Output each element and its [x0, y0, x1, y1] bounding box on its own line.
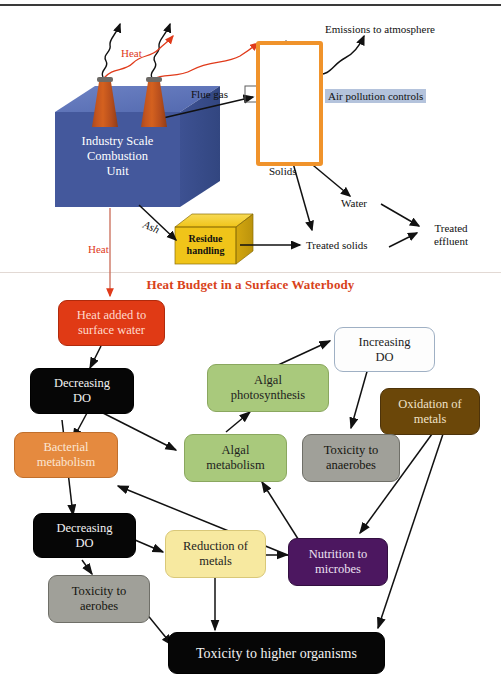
node-decreasing-do-lower[interactable]: Decreasing DO	[33, 513, 136, 558]
node-toxicity-to-higher-organisms-label: Toxicity to higher organisms	[196, 646, 357, 661]
figure-canvas: Industry Scale Combustion Unit Heat Flue…	[0, 0, 501, 690]
treated-effluent-line-1: Treated	[420, 222, 482, 235]
node-decreasing-do-lower-line-2: DO	[56, 536, 112, 551]
flue-gas-arrow	[163, 97, 253, 118]
heat-label-downward: Heat	[88, 243, 109, 255]
node-toxicity-to-aerobes[interactable]: Toxicity to aerobes	[48, 575, 150, 623]
node-bacterial-metabolism[interactable]: Bacterial metabolism	[14, 432, 118, 478]
edge-heat-to-dec-do1	[90, 346, 101, 368]
smokestack-right	[141, 80, 167, 127]
stack1-smoke-arrow	[102, 24, 120, 77]
node-bacterial-metabolism-line-2: metabolism	[37, 455, 95, 470]
treated-solids-label: Treated solids	[306, 239, 368, 251]
node-algal-photosynthesis-line-2: photosynthesis	[231, 388, 305, 403]
node-nutrition-to-microbes-line-1: Nutrition to	[309, 547, 368, 562]
node-toxicity-to-anaerobes-line-2: anaerobes	[324, 458, 378, 473]
node-toxicity-to-anaerobes[interactable]: Toxicity to anaerobes	[302, 434, 400, 482]
node-reduction-of-metals-line-1: Reduction of	[183, 539, 248, 554]
node-reduction-of-metals-line-2: metals	[183, 554, 248, 569]
heat-label-stacks: Heat	[121, 47, 142, 59]
water-label: Water	[341, 197, 367, 209]
node-heat-added-to-surface-water[interactable]: Heat added to surface water	[58, 300, 165, 346]
node-toxicity-to-aerobes-line-1: Toxicity to	[72, 584, 126, 599]
smokestack-left	[92, 80, 118, 127]
combustion-unit-line-1: Industry Scale	[56, 134, 179, 149]
section-title: Heat Budget in a Surface Waterbody	[0, 277, 501, 293]
node-decreasing-do-upper-line-2: DO	[54, 391, 110, 406]
node-toxicity-to-aerobes-line-2: aerobes	[72, 599, 126, 614]
node-increasing-do-line-1: Increasing	[358, 335, 410, 350]
edge-nutr-to-algmet	[262, 482, 300, 542]
section-divider-rule	[0, 272, 501, 273]
node-toxicity-to-anaerobes-line-1: Toxicity to	[324, 443, 378, 458]
edge-algphot-to-incdo	[276, 341, 330, 366]
residue-handling-line-1: Residue	[176, 233, 235, 245]
smokestack-left-cap	[97, 77, 113, 82]
node-decreasing-do-lower-line-1: Decreasing	[56, 521, 112, 536]
page-top-rule	[0, 4, 501, 6]
node-increasing-do-line-2: DO	[358, 350, 410, 365]
solids-label: Solids	[269, 165, 297, 177]
node-nutrition-to-microbes[interactable]: Nutrition to microbes	[288, 538, 388, 586]
stack2-smoke-arrow	[151, 24, 170, 78]
node-algal-photosynthesis-line-1: Algal	[231, 373, 305, 388]
combustion-unit-line-2: Combustion	[56, 149, 179, 164]
air-pollution-controls-label: Air pollution controls	[325, 89, 426, 103]
combustion-unit-label: Industry Scale Combustion Unit	[56, 134, 179, 179]
emissions-arrow	[318, 36, 364, 74]
edge-algmet-to-algphot	[226, 412, 250, 432]
node-increasing-do[interactable]: Increasing DO	[334, 327, 435, 372]
residue-handling-label: Residue handling	[176, 233, 235, 257]
edge-dec-do2-to-redmet	[135, 540, 163, 552]
node-heat-added-line-2: surface water	[77, 323, 146, 338]
emissions-to-atmosphere-label: Emissions to atmosphere	[325, 23, 435, 35]
node-algal-metabolism[interactable]: Algal metabolism	[184, 434, 287, 482]
node-oxidation-of-metals-line-1: Oxidation of	[398, 397, 462, 412]
node-oxidation-of-metals-line-2: metals	[398, 412, 462, 427]
edge-dec-do2-to-toxaer	[82, 560, 92, 574]
residue-handling-line-2: handling	[176, 245, 235, 257]
node-algal-metabolism-line-1: Algal	[206, 443, 264, 458]
node-decreasing-do-upper[interactable]: Decreasing DO	[30, 368, 134, 414]
node-algal-metabolism-line-2: metabolism	[206, 458, 264, 473]
node-decreasing-do-upper-line-1: Decreasing	[54, 376, 110, 391]
node-oxidation-of-metals[interactable]: Oxidation of metals	[380, 388, 480, 435]
node-heat-added-line-1: Heat added to	[77, 308, 146, 323]
air-pollution-control-device	[256, 41, 323, 166]
node-bacterial-metabolism-line-1: Bacterial	[37, 440, 95, 455]
treated-solids-to-effluent-arrow	[389, 233, 417, 247]
smokestack-right-cap	[146, 77, 162, 82]
heat-wave-arrow-2	[153, 43, 258, 79]
node-toxicity-to-higher-organisms[interactable]: Toxicity to higher organisms	[168, 632, 385, 674]
treated-effluent-line-2: effluent	[420, 235, 482, 248]
node-nutrition-to-microbes-line-2: microbes	[309, 562, 368, 577]
ash-label: Ash	[142, 218, 162, 235]
combustion-unit-line-3: Unit	[56, 164, 179, 179]
treated-effluent-label: Treated effluent	[420, 222, 482, 248]
water-to-effluent-arrow	[381, 204, 419, 226]
flue-gas-label: Flue gas	[191, 88, 228, 100]
node-algal-photosynthesis[interactable]: Algal photosynthesis	[207, 364, 329, 412]
node-reduction-of-metals[interactable]: Reduction of metals	[165, 530, 266, 578]
edge-incdo-to-toxana	[351, 368, 368, 428]
